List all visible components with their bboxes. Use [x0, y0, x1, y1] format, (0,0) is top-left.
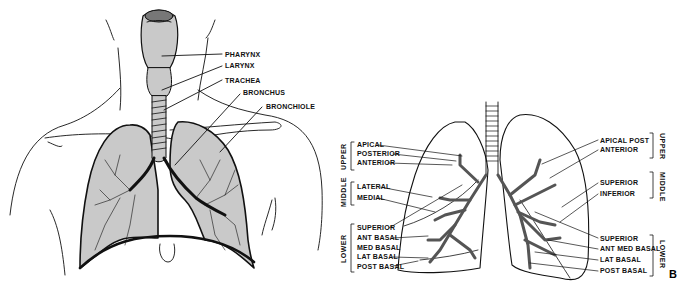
figure-a-right-lung — [80, 125, 158, 268]
panel-letter-b: B — [669, 268, 677, 280]
group-label-upper-left: UPPER — [340, 143, 348, 170]
label-ant-med-basal: ANT MED BASAL — [600, 245, 661, 253]
label-superior-lower: SUPERIOR — [600, 235, 638, 243]
group-label-middle-left: MIDDLE — [340, 177, 348, 207]
label-anterior-right: ANTERIOR — [600, 146, 638, 154]
label-apical-post: APICAL POST — [600, 137, 649, 145]
label-posterior: POSTERIOR — [357, 150, 400, 158]
label-larynx: LARYNX — [225, 62, 255, 70]
figure-b-bronchial-tree-left — [428, 155, 486, 262]
figure-b-trachea — [486, 102, 498, 175]
label-post-basal-left: POST BASAL — [357, 263, 404, 271]
label-lat-basal-left: LAT BASAL — [357, 253, 398, 261]
label-lateral: LATERAL — [357, 183, 391, 191]
group-label-lower-right: LOWER — [658, 240, 666, 269]
group-label-upper-right: UPPER — [658, 133, 666, 160]
label-trachea: TRACHEA — [225, 77, 261, 85]
label-ant-basal: ANT BASAL — [357, 234, 399, 242]
label-medial: MEDIAL — [357, 194, 385, 202]
figure-b-left-brackets — [351, 142, 354, 272]
group-label-middle-right: MIDDLE — [658, 172, 666, 202]
respiratory-diagram — [0, 0, 677, 288]
label-inferior: INFERIOR — [600, 190, 635, 198]
label-anterior-left: ANTERIOR — [357, 159, 395, 167]
figure-b-left-lung — [500, 115, 589, 280]
label-apical: APICAL — [357, 141, 384, 149]
group-label-lower-left: LOWER — [340, 234, 348, 263]
label-pharynx: PHARYNX — [225, 51, 260, 59]
figure-b-right-brackets — [650, 133, 653, 276]
figure-a-left-lung — [170, 122, 254, 268]
label-med-basal: MED BASAL — [357, 244, 400, 252]
label-post-basal-right: POST BASAL — [600, 267, 647, 275]
label-bronchus: BRONCHUS — [243, 89, 285, 97]
label-lat-basal-right: LAT BASAL — [600, 256, 641, 264]
label-superior-left: SUPERIOR — [357, 224, 395, 232]
label-bronchiole: BRONCHIOLE — [266, 103, 315, 111]
label-superior-middle: SUPERIOR — [600, 179, 638, 187]
